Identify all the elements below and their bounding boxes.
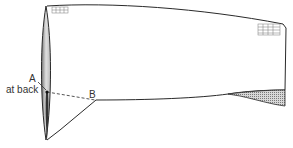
- sleeve-outline: [47, 5, 286, 140]
- label-at-back: at back: [6, 84, 39, 95]
- hatch-mark-top-right: [258, 24, 280, 35]
- sleeve-diagram: A at back B: [0, 0, 293, 148]
- label-b: B: [89, 89, 96, 100]
- hatch-mark-top-left: [52, 7, 68, 13]
- label-a: A: [29, 73, 36, 84]
- dashed-line-a-b: [47, 92, 95, 100]
- point-a-marker: [45, 90, 48, 93]
